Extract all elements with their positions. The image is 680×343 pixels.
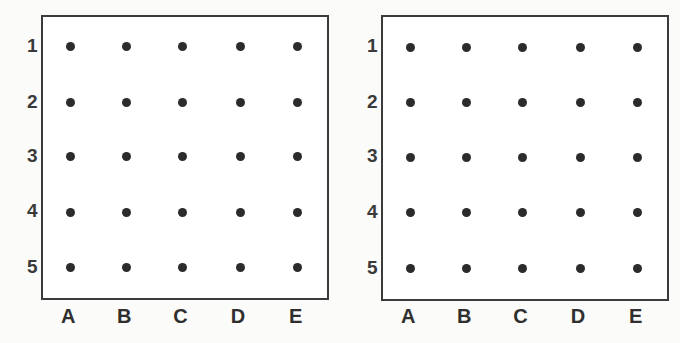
grid-dot-C5[interactable]	[178, 263, 187, 272]
grid-dot-C2[interactable]	[518, 98, 527, 107]
grid-dot-C5[interactable]	[518, 264, 527, 273]
column-label-E: E	[281, 306, 311, 326]
grid-dot-C1[interactable]	[518, 43, 527, 52]
grid-dot-A3[interactable]	[406, 153, 415, 162]
dot-layer-left	[43, 17, 327, 298]
grid-dot-B3[interactable]	[122, 152, 131, 161]
panel-left: 12345 ABCDE	[0, 0, 340, 343]
column-label-A: A	[53, 306, 83, 326]
row-label-3: 3	[8, 145, 38, 164]
grid-dot-B5[interactable]	[122, 263, 131, 272]
column-label-A: A	[393, 306, 423, 326]
grid-box-right[interactable]	[381, 15, 669, 301]
row-label-4: 4	[348, 201, 378, 220]
grid-dot-C3[interactable]	[518, 153, 527, 162]
dot-grid-figure: 12345 ABCDE 12345 ABCDE	[0, 0, 680, 343]
grid-dot-E5[interactable]	[293, 263, 302, 272]
grid-dot-B1[interactable]	[122, 42, 131, 51]
grid-dot-A2[interactable]	[66, 98, 75, 107]
grid-dot-C1[interactable]	[178, 42, 187, 51]
grid-dot-B2[interactable]	[462, 98, 471, 107]
grid-dot-A1[interactable]	[66, 42, 75, 51]
grid-dot-E5[interactable]	[633, 264, 642, 273]
grid-dot-C4[interactable]	[518, 208, 527, 217]
column-label-C: C	[506, 306, 536, 326]
grid-dot-A4[interactable]	[66, 208, 75, 217]
grid-dot-E1[interactable]	[633, 43, 642, 52]
row-label-4: 4	[8, 201, 38, 220]
grid-dot-C4[interactable]	[178, 208, 187, 217]
grid-dot-B3[interactable]	[462, 153, 471, 162]
grid-dot-E4[interactable]	[293, 208, 302, 217]
column-label-D: D	[223, 306, 253, 326]
column-label-group-right: ABCDE	[381, 306, 669, 336]
grid-dot-E3[interactable]	[293, 152, 302, 161]
row-label-group-left: 12345	[8, 0, 38, 343]
grid-dot-B2[interactable]	[122, 98, 131, 107]
grid-box-left[interactable]	[41, 15, 329, 300]
row-label-5: 5	[348, 257, 378, 276]
grid-dot-D2[interactable]	[236, 98, 245, 107]
column-label-group-left: ABCDE	[41, 306, 329, 336]
grid-dot-B5[interactable]	[462, 264, 471, 273]
grid-dot-A5[interactable]	[66, 263, 75, 272]
grid-dot-C3[interactable]	[178, 152, 187, 161]
grid-dot-E2[interactable]	[633, 98, 642, 107]
column-label-E: E	[621, 306, 651, 326]
grid-dot-B4[interactable]	[462, 208, 471, 217]
grid-dot-D1[interactable]	[576, 43, 585, 52]
row-label-group-right: 12345	[348, 0, 378, 343]
grid-dot-E3[interactable]	[633, 153, 642, 162]
grid-dot-D3[interactable]	[236, 152, 245, 161]
grid-dot-D4[interactable]	[236, 208, 245, 217]
grid-dot-E4[interactable]	[633, 208, 642, 217]
grid-dot-D1[interactable]	[236, 42, 245, 51]
grid-dot-A1[interactable]	[406, 43, 415, 52]
grid-dot-E1[interactable]	[293, 42, 302, 51]
grid-dot-D5[interactable]	[236, 263, 245, 272]
grid-dot-D5[interactable]	[576, 264, 585, 273]
grid-dot-A3[interactable]	[66, 152, 75, 161]
grid-dot-A5[interactable]	[406, 264, 415, 273]
grid-dot-E2[interactable]	[293, 98, 302, 107]
column-label-B: B	[450, 306, 480, 326]
column-label-B: B	[110, 306, 140, 326]
row-label-2: 2	[348, 91, 378, 110]
grid-dot-C2[interactable]	[178, 98, 187, 107]
grid-dot-B1[interactable]	[462, 43, 471, 52]
column-label-D: D	[563, 306, 593, 326]
row-label-1: 1	[8, 35, 38, 54]
grid-dot-B4[interactable]	[122, 208, 131, 217]
dot-layer-right	[383, 17, 667, 299]
row-label-1: 1	[348, 36, 378, 55]
grid-dot-D2[interactable]	[576, 98, 585, 107]
grid-dot-D4[interactable]	[576, 208, 585, 217]
grid-dot-A4[interactable]	[406, 208, 415, 217]
row-label-5: 5	[8, 256, 38, 275]
grid-dot-A2[interactable]	[406, 98, 415, 107]
grid-dot-D3[interactable]	[576, 153, 585, 162]
row-label-3: 3	[348, 146, 378, 165]
panel-right: 12345 ABCDE	[340, 0, 680, 343]
column-label-C: C	[166, 306, 196, 326]
row-label-2: 2	[8, 91, 38, 110]
